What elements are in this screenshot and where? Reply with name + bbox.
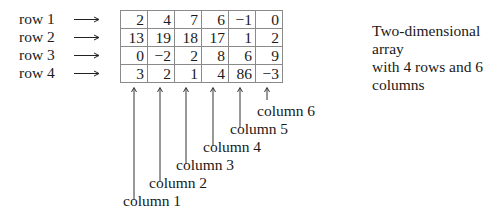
row-label-1: row 1 — [19, 10, 55, 28]
grid-cell: 19 — [148, 29, 175, 47]
grid-cell: 8 — [202, 47, 229, 65]
grid-cell: 7 — [175, 11, 202, 29]
grid-cell: 4 — [202, 65, 229, 83]
grid-cell: 13 — [121, 29, 148, 47]
grid-row-2: 13 19 18 17 1 2 — [121, 29, 283, 47]
up-arrow-icon — [157, 87, 163, 182]
grid-cell: −3 — [256, 65, 283, 83]
grid-cell: 9 — [256, 47, 283, 65]
right-arrow-icon — [74, 46, 100, 64]
grid-cell: 2 — [121, 11, 148, 29]
grid-cell: 2 — [148, 65, 175, 83]
grid-cell: 2 — [175, 47, 202, 65]
right-arrow-icon — [74, 64, 100, 82]
grid-row-3: 0 −2 2 8 6 9 — [121, 47, 283, 65]
grid-cell: −1 — [229, 11, 256, 29]
column-label-1: column 1 — [123, 193, 181, 209]
grid-cell: −2 — [148, 47, 175, 65]
grid-cell: 0 — [256, 11, 283, 29]
column-label-4: column 4 — [203, 139, 261, 155]
grid-cell: 6 — [202, 11, 229, 29]
grid-row-1: 2 4 7 6 −1 0 — [121, 11, 283, 29]
grid-cell: 1 — [175, 65, 202, 83]
grid-cell: 3 — [121, 65, 148, 83]
up-arrow-icon — [131, 87, 137, 200]
grid-cell: 86 — [229, 65, 256, 83]
grid-cell: 2 — [256, 29, 283, 47]
column-label-3: column 3 — [176, 157, 234, 173]
grid-cell: 17 — [202, 29, 229, 47]
column-label-6: column 6 — [257, 103, 315, 119]
grid-row-4: 3 2 1 4 86 −3 — [121, 65, 283, 83]
array-grid: 2 4 7 6 −1 0 13 19 18 17 1 2 0 −2 2 8 6 … — [120, 10, 283, 83]
column-label-5: column 5 — [230, 121, 288, 137]
column-label-2: column 2 — [149, 175, 207, 191]
grid-cell: 0 — [121, 47, 148, 65]
right-arrow-icon — [74, 28, 100, 46]
grid-cell: 4 — [148, 11, 175, 29]
right-arrow-icon — [74, 10, 100, 28]
row-label-3: row 3 — [19, 46, 55, 64]
grid-cell: 18 — [175, 29, 202, 47]
grid-cell: 6 — [229, 47, 256, 65]
up-arrow-icon — [264, 87, 270, 100]
description-line-2: with 4 rows and 6 columns — [372, 58, 497, 94]
row-label-2: row 2 — [19, 28, 55, 46]
array-description: Two-dimensional array with 4 rows and 6 … — [372, 22, 497, 94]
row-label-4: row 4 — [19, 64, 55, 82]
up-arrow-icon — [183, 87, 189, 164]
description-line-1: Two-dimensional array — [372, 22, 497, 58]
grid-cell: 1 — [229, 29, 256, 47]
